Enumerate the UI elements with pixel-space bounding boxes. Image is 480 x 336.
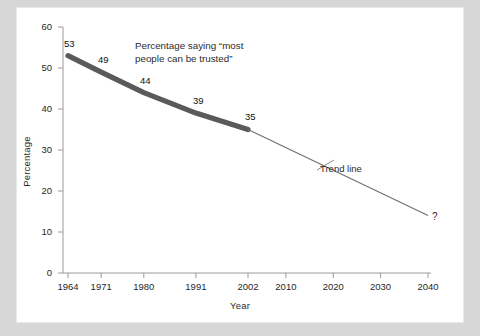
y-tick-label-60: 60 [26,21,52,32]
y-tick-label-30: 30 [26,144,52,155]
x-tick-label-1991: 1991 [176,281,216,292]
data-label-1964: 53 [64,38,75,49]
trend-line-label: Trend line [320,163,362,174]
x-tick-label-2002: 2002 [228,281,268,292]
x-tick-label-2010: 2010 [266,281,306,292]
x-tick-label-1971: 1971 [81,281,121,292]
chart-card: Percentage Year 0 10 20 30 40 50 60 1964… [17,8,463,322]
data-label-1991: 39 [193,95,204,106]
y-tick-label-20: 20 [26,185,52,196]
uncertainty-question-mark: ? [432,211,438,222]
y-tick-label-0: 0 [26,267,52,278]
y-tick-label-40: 40 [26,103,52,114]
data-label-2002: 35 [245,111,256,122]
series-annotation-line-2: people can be trusted” [135,53,233,66]
x-tick-label-2030: 2030 [361,281,401,292]
y-tick-label-10: 10 [26,226,52,237]
series-annotation-line-1: Percentage saying “most [135,40,243,53]
x-tick-label-2040: 2040 [408,281,448,292]
x-axis-title: Year [17,300,463,311]
y-axis-ticks [58,27,63,273]
y-tick-label-50: 50 [26,62,52,73]
data-label-1980: 44 [140,75,151,86]
x-tick-label-2020: 2020 [313,281,353,292]
x-axis-ticks [68,273,428,278]
data-label-1971: 49 [98,54,109,65]
data-series-line [68,56,248,130]
x-tick-label-1980: 1980 [124,281,164,292]
chart-page: Percentage Year 0 10 20 30 40 50 60 1964… [0,0,480,336]
chart-plot-area [17,8,463,322]
